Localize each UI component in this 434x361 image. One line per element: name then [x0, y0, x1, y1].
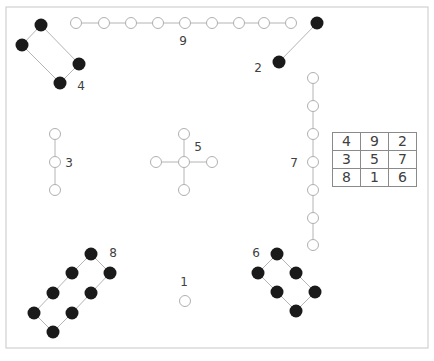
filled-dot — [85, 287, 98, 300]
open-dot — [259, 18, 270, 29]
open-dot — [180, 18, 191, 29]
magic-square-row: 4 9 2 — [333, 133, 417, 151]
group-label: 5 — [194, 140, 202, 154]
filled-dot — [73, 58, 86, 71]
filled-dot — [252, 267, 265, 280]
open-dot — [50, 185, 61, 196]
open-dot — [151, 157, 162, 168]
filled-dot — [47, 287, 60, 300]
lo-shu-diagram: 123456789 4 9 2 3 5 7 8 1 6 — [0, 0, 434, 361]
filled-dot — [273, 56, 286, 69]
magic-square-row: 3 5 7 — [333, 151, 417, 169]
open-dot — [207, 157, 218, 168]
group-label: 1 — [180, 275, 188, 289]
open-dot — [308, 129, 319, 140]
magic-square-cell: 1 — [361, 169, 389, 187]
open-dot — [153, 18, 164, 29]
filled-dot — [85, 248, 98, 261]
magic-square-cell: 2 — [389, 133, 417, 151]
open-dot — [308, 157, 319, 168]
filled-dot — [28, 307, 41, 320]
open-dot — [179, 157, 190, 168]
filled-dot — [66, 267, 79, 280]
magic-square-cell: 4 — [333, 133, 361, 151]
filled-dot — [16, 39, 29, 52]
open-dot — [308, 213, 319, 224]
open-dot — [179, 185, 190, 196]
filled-dot — [66, 307, 79, 320]
filled-dot — [290, 267, 303, 280]
open-dot — [207, 18, 218, 29]
magic-square-cell: 8 — [333, 169, 361, 187]
open-dot — [180, 296, 191, 307]
magic-square-cell: 6 — [389, 169, 417, 187]
open-dot — [50, 157, 61, 168]
filled-dot — [104, 267, 117, 280]
filled-dot — [54, 77, 67, 90]
filled-dot — [311, 17, 324, 30]
magic-square-cell: 7 — [389, 151, 417, 169]
group-label: 6 — [252, 246, 260, 260]
open-dot — [50, 129, 61, 140]
open-dot — [234, 18, 245, 29]
group-label: 8 — [109, 246, 117, 260]
magic-square-cell: 9 — [361, 133, 389, 151]
open-dot — [308, 101, 319, 112]
filled-dot — [290, 305, 303, 318]
group-label: 7 — [290, 156, 298, 170]
magic-square-table: 4 9 2 3 5 7 8 1 6 — [332, 132, 417, 187]
open-dot — [99, 18, 110, 29]
magic-square-cell: 3 — [333, 151, 361, 169]
magic-square-row: 8 1 6 — [333, 169, 417, 187]
open-dot — [308, 240, 319, 251]
filled-dot — [271, 286, 284, 299]
open-dot — [179, 129, 190, 140]
open-dot — [308, 185, 319, 196]
open-dot — [286, 18, 297, 29]
group-label: 2 — [254, 61, 262, 75]
open-dot — [308, 73, 319, 84]
magic-square-cell: 5 — [361, 151, 389, 169]
group-label: 4 — [77, 79, 85, 93]
filled-dot — [35, 19, 48, 32]
open-dot — [126, 18, 137, 29]
group-label: 9 — [179, 34, 187, 48]
filled-dot — [271, 248, 284, 261]
open-dot — [71, 18, 82, 29]
filled-dot — [47, 326, 60, 339]
group-label: 3 — [65, 156, 73, 170]
filled-dot — [309, 286, 322, 299]
